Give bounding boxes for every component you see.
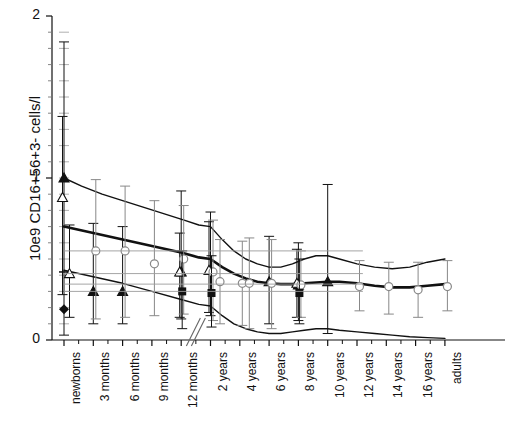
data-point-filled-triangle[interactable] — [118, 286, 128, 295]
x-tick-label: 4 years — [245, 352, 259, 391]
reference-curve-upper-percentile — [64, 178, 445, 269]
y-tick-label: 0 — [20, 330, 40, 346]
x-tick-label: newborns — [69, 352, 83, 404]
data-point-filled-diamond[interactable] — [59, 304, 69, 314]
data-point-open-circle[interactable] — [245, 279, 253, 287]
data-point-open-circle[interactable] — [414, 286, 422, 294]
series-filled-square — [177, 251, 304, 329]
y-tick-label: 2 — [20, 6, 40, 22]
data-point-open-circle[interactable] — [268, 279, 276, 287]
series-filled-diamond — [59, 272, 69, 335]
data-point-open-circle[interactable] — [297, 281, 305, 289]
x-tick-label: 9 months — [157, 352, 171, 401]
data-point-filled-triangle[interactable] — [59, 173, 69, 182]
x-tick-label: 6 years — [274, 352, 288, 391]
x-tick-label: 3 months — [98, 352, 112, 401]
data-point-open-circle[interactable] — [443, 283, 451, 291]
x-tick-label: 12 months — [186, 352, 200, 408]
data-point-open-triangle[interactable] — [65, 269, 75, 278]
chart-figure: 10e9 CD16+56+3- cells/l 012newborns3 mon… — [0, 0, 514, 427]
data-point-filled-square[interactable] — [208, 289, 216, 297]
series-filled-triangle — [59, 42, 333, 334]
data-point-open-circle[interactable] — [385, 283, 393, 291]
series-open-circle — [91, 180, 453, 329]
data-point-open-circle[interactable] — [180, 255, 188, 263]
x-tick-label: 14 years — [391, 352, 405, 398]
x-tick-label: 2 years — [216, 352, 230, 391]
x-tick-label: 8 years — [303, 352, 317, 391]
data-point-open-circle[interactable] — [150, 260, 158, 268]
x-tick-label: 10 years — [333, 352, 347, 398]
data-point-filled-triangle[interactable] — [88, 286, 98, 295]
data-point-open-triangle[interactable] — [58, 192, 68, 201]
data-point-filled-square[interactable] — [295, 289, 303, 297]
x-tick-label: 16 years — [421, 352, 435, 398]
y-tick-label: 1 — [20, 168, 40, 184]
data-point-open-circle[interactable] — [209, 268, 217, 276]
x-tick-label: 12 years — [362, 352, 376, 398]
x-tick-label: adults — [450, 352, 464, 384]
x-tick-label: 6 months — [128, 352, 142, 401]
reference-curve-median — [64, 227, 445, 288]
